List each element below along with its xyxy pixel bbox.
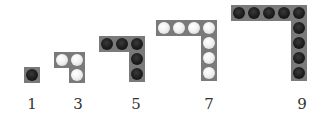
dark-counter-icon <box>248 7 260 19</box>
dark-counter-icon <box>293 67 305 79</box>
dark-counter-icon <box>26 69 38 81</box>
counter-cell <box>201 50 217 66</box>
counter-cell <box>201 35 217 51</box>
counter-cell <box>291 20 307 36</box>
counter-cell <box>186 20 202 36</box>
label-7: 7 <box>199 95 219 113</box>
counter-cell <box>246 5 262 21</box>
dark-counter-icon <box>263 7 275 19</box>
light-counter-icon <box>71 54 83 66</box>
counter-cell <box>129 66 145 82</box>
dark-counter-icon <box>293 7 305 19</box>
counter-cell <box>291 35 307 51</box>
dark-counter-icon <box>233 7 245 19</box>
counter-cell <box>261 5 277 21</box>
counter-cell <box>231 5 247 21</box>
label-3: 3 <box>68 95 88 113</box>
light-counter-icon <box>203 67 215 79</box>
dark-counter-icon <box>293 37 305 49</box>
dark-counter-icon <box>131 53 143 65</box>
counter-cell <box>99 36 115 52</box>
light-counter-icon <box>203 37 215 49</box>
counter-cell <box>69 67 85 83</box>
counter-cell <box>129 36 145 52</box>
label-5: 5 <box>126 95 146 113</box>
counter-cell <box>156 20 172 36</box>
dark-counter-icon <box>293 22 305 34</box>
counter-cell <box>171 20 187 36</box>
counter-cell <box>69 52 85 68</box>
dark-counter-icon <box>131 38 143 50</box>
counter-cell <box>201 20 217 36</box>
dark-counter-icon <box>278 7 290 19</box>
light-counter-icon <box>56 54 68 66</box>
dark-counter-icon <box>293 52 305 64</box>
counter-cell <box>114 36 130 52</box>
counter-cell <box>24 67 40 83</box>
light-counter-icon <box>203 52 215 64</box>
label-9: 9 <box>292 95 312 113</box>
light-counter-icon <box>203 22 215 34</box>
counter-cell <box>201 65 217 81</box>
counter-cell <box>291 50 307 66</box>
counter-cell <box>291 65 307 81</box>
dark-counter-icon <box>101 38 113 50</box>
counter-cell <box>291 5 307 21</box>
dark-counter-icon <box>131 68 143 80</box>
light-counter-icon <box>173 22 185 34</box>
counter-cell <box>276 5 292 21</box>
light-counter-icon <box>71 69 83 81</box>
light-counter-icon <box>188 22 200 34</box>
dark-counter-icon <box>116 38 128 50</box>
label-1: 1 <box>22 95 42 113</box>
counter-cell <box>129 51 145 67</box>
counter-cell <box>54 52 70 68</box>
light-counter-icon <box>158 22 170 34</box>
